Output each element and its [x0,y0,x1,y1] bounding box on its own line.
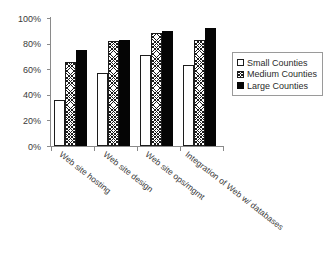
legend: Small Counties Medium Counties Large Cou… [232,52,323,96]
x-axis-tick [51,146,52,151]
legend-swatch-small-icon [237,59,244,66]
bar [205,28,216,146]
bar [108,41,119,146]
x-axis-tick [180,146,181,151]
legend-item-label: Medium Counties [247,69,317,79]
legend-item: Large Counties [237,81,317,91]
x-axis-tick [137,146,138,151]
bar [183,65,194,146]
x-axis-tick [94,146,95,151]
y-axis-tick-label: 0% [28,142,41,151]
y-axis-tick-label: 80% [23,40,41,49]
y-axis-tick: 40% [47,95,51,96]
bar [151,33,162,146]
bar-chart: 100% 80% 60% 40% 20% 0% Web site hosting… [0,0,328,255]
legend-swatch-medium-icon [237,71,244,78]
legend-item: Small Counties [237,58,317,68]
bar [65,62,76,146]
y-axis-tick-label: 60% [23,65,41,74]
y-axis-tick: 100% [47,18,51,19]
bar [76,50,87,146]
y-axis-tick-label: 100% [18,14,41,23]
legend-item-label: Large Counties [247,81,308,91]
legend-item: Medium Counties [237,69,317,79]
y-axis-tick-label: 20% [23,116,41,125]
bar-group [183,18,216,146]
bar-group [97,18,130,146]
plot-area: 100% 80% 60% 40% 20% 0% [51,18,223,146]
bar [140,55,151,146]
x-axis-tick [223,146,224,151]
legend-swatch-large-icon [237,82,244,89]
y-axis-tick: 20% [47,120,51,121]
bar [162,31,173,146]
y-axis-tick: 80% [47,44,51,45]
bar [97,73,108,146]
bar-group [140,18,173,146]
bar [194,40,205,146]
bar-group [54,18,87,146]
bar [119,40,130,146]
bar [54,100,65,146]
y-axis-tick-label: 40% [23,91,41,100]
y-axis-tick: 60% [47,69,51,70]
legend-item-label: Small Counties [247,58,308,68]
